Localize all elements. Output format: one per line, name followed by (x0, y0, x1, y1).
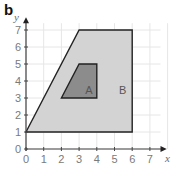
y-tick-label: 0 (15, 143, 21, 155)
x-axis-label: x (164, 152, 170, 164)
x-tick-label: 1 (41, 153, 47, 165)
x-tick-label: 4 (94, 153, 100, 165)
y-tick-label: 5 (15, 58, 21, 70)
y-tick-label: 2 (15, 109, 21, 121)
x-tick-label: 2 (58, 153, 64, 165)
y-tick-label: 7 (15, 24, 21, 36)
x-tick-label: 5 (111, 153, 117, 165)
y-tick-label: 6 (15, 41, 21, 53)
shape-b-label: B (119, 84, 126, 96)
coordinate-grid: 0123456701234567 A B x y (0, 0, 176, 169)
x-tick-label: 7 (147, 153, 153, 165)
x-tick-label: 0 (23, 153, 29, 165)
y-tick-label: 4 (15, 75, 21, 87)
x-tick-label: 3 (76, 153, 82, 165)
y-axis-label: y (13, 11, 19, 23)
y-tick-label: 1 (15, 126, 21, 138)
shape-a-label: A (85, 84, 93, 96)
y-tick-label: 3 (15, 92, 21, 104)
x-tick-label: 6 (129, 153, 135, 165)
